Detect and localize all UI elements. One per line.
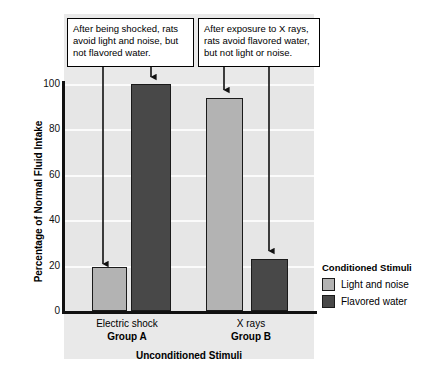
legend-item-flavored-water[interactable]: Flavored water [322, 295, 442, 308]
bar-group-a-flavored-water[interactable] [131, 84, 171, 311]
x-group-name-a: Group A [62, 330, 192, 343]
y-axis-title: Percentage of Normal Fluid Intake [33, 102, 44, 302]
annotation-callout-group-a: After being shocked, rats avoid light an… [67, 18, 194, 67]
x-group-sublabel-a: Electric shock [62, 317, 192, 330]
legend-title: Conditioned Stimuli [322, 262, 442, 273]
x-axis-line [62, 311, 317, 314]
plot-area [64, 84, 314, 311]
legend-label-flavored-water: Flavored water [341, 296, 407, 307]
annotation-callout-group-b: After exposure to X rays, rats avoid fla… [198, 18, 320, 67]
x-axis-title: Unconditioned Stimuli [64, 350, 314, 361]
x-group-label-a: Electric shock Group A [62, 317, 192, 343]
x-group-label-b: X rays Group B [186, 317, 316, 343]
bar-group-b-flavored-water[interactable] [251, 259, 288, 311]
legend-item-light-and-noise[interactable]: Light and noise [322, 278, 442, 291]
bar-chart-figure: 100 80 60 40 20 0 Percentage of Normal F… [0, 0, 447, 376]
gridline-40 [64, 220, 314, 222]
legend-swatch-light-and-noise [322, 278, 335, 291]
gridline-60 [64, 175, 314, 177]
legend-label-light-and-noise: Light and noise [341, 279, 409, 290]
legend-swatch-flavored-water [322, 295, 335, 308]
bar-group-a-light-and-noise[interactable] [92, 267, 127, 311]
y-tick-label-0: 0 [26, 306, 60, 316]
bar-group-b-light-and-noise[interactable] [206, 98, 243, 311]
gridline-80 [64, 129, 314, 131]
y-tick-label-100: 100 [26, 79, 60, 89]
gridline-100 [64, 84, 314, 86]
x-group-name-b: Group B [186, 330, 316, 343]
y-axis-line [62, 81, 65, 314]
legend: Conditioned Stimuli Light and noise Flav… [322, 262, 442, 312]
x-group-sublabel-b: X rays [186, 317, 316, 330]
